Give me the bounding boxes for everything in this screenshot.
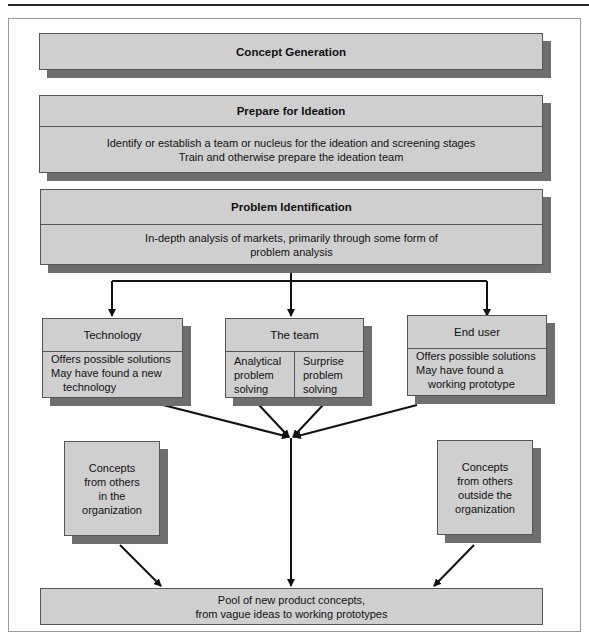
prepare-line-2: Train and otherwise prepare the ideation… [179,150,404,164]
end-user-line-1: Offers possible solutions [416,349,536,363]
team-left-line-2: problem [234,368,281,382]
team-box: The team Analytical problem solving Surp… [225,318,364,398]
technology-line-1: Offers possible solutions [51,352,171,366]
concept-generation-box: Concept Generation [39,33,543,70]
problem-line-2: problem analysis [250,245,333,259]
prepare-for-ideation-box: Prepare for Ideation Identify or establi… [39,95,543,173]
technology-line-2: May have found a new [51,366,162,380]
end-user-body: Offers possible solutions May have found… [408,349,546,396]
inside-line-3: in the [99,489,126,503]
problem-line-1: In-depth analysis of markets, primarily … [145,231,438,245]
team-analytical: Analytical problem solving [226,352,295,398]
team-surprise: Surprise problem solving [295,352,363,398]
problem-identification-box: Problem Identification In-depth analysis… [40,189,543,265]
pool-body: Pool of new product concepts, from vague… [41,589,542,624]
end-user-box: End user Offers possible solutions May h… [407,315,547,396]
inside-line-2: from others [84,475,140,489]
team-left-line-3: solving [234,382,281,396]
end-user-line-3: working prototype [416,377,515,391]
concepts-outside-box: Concepts from others outside the organiz… [437,440,533,535]
concepts-outside-body: Concepts from others outside the organiz… [438,441,532,534]
team-right-line-3: solving [303,382,344,396]
team-right-line-1: Surprise [303,354,344,368]
problem-body: In-depth analysis of markets, primarily … [41,225,542,265]
end-user-title: End user [408,316,546,349]
inside-line-4: organization [82,503,142,517]
prepare-body: Identify or establish a team or nucleus … [40,127,542,173]
concept-generation-title: Concept Generation [40,34,542,69]
pool-line-1: Pool of new product concepts, [218,593,365,607]
technology-box: Technology Offers possible solutions May… [42,318,183,398]
outside-line-1: Concepts [462,460,508,474]
pool-box: Pool of new product concepts, from vague… [40,588,543,625]
concepts-inside-box: Concepts from others in the organization [64,441,160,536]
team-right-line-2: problem [303,368,344,382]
team-title: The team [226,319,363,352]
problem-title: Problem Identification [41,190,542,225]
prepare-line-1: Identify or establish a team or nucleus … [107,136,476,150]
end-user-line-2: May have found a [416,363,503,377]
pool-line-2: from vague ideas to working prototypes [196,607,388,621]
outside-line-3: outside the [458,488,512,502]
technology-body: Offers possible solutions May have found… [43,352,182,398]
concepts-inside-body: Concepts from others in the organization [65,442,159,535]
outside-line-2: from others [457,474,513,488]
prepare-title: Prepare for Ideation [40,96,542,127]
technology-line-3: technology [51,380,116,394]
inside-line-1: Concepts [89,461,135,475]
technology-title: Technology [43,319,182,352]
team-left-line-1: Analytical [234,354,281,368]
outside-line-4: organization [455,502,515,516]
